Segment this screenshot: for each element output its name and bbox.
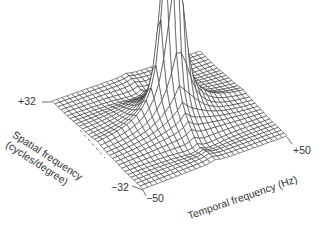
tick-label-temporal-min: −50: [146, 193, 164, 204]
surface-mesh: [52, 0, 287, 189]
tick-label-spatial-min: −32: [111, 182, 129, 193]
tick-label-temporal-max: +50: [293, 145, 311, 156]
tick-temporal-max: [287, 137, 292, 144]
tick-label-spatial-max: +32: [18, 96, 36, 107]
